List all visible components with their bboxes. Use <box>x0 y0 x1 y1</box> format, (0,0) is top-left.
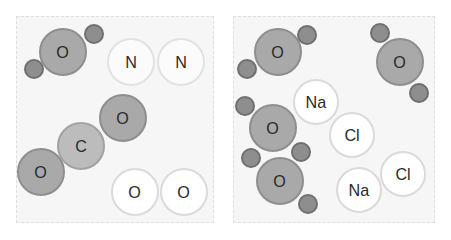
atom-o: O <box>17 148 65 196</box>
atom-label: Cl <box>395 166 410 183</box>
atom-na: Na <box>293 79 339 125</box>
atom-h <box>84 24 104 44</box>
atom-label: O <box>272 44 285 61</box>
atom-label: O <box>35 164 48 181</box>
atom-n: N <box>107 38 155 86</box>
atom-label: Na <box>306 94 327 111</box>
atom-h <box>409 83 429 103</box>
atom-c: C <box>57 122 105 170</box>
atom-o: O <box>160 168 208 216</box>
atom-na: Na <box>336 167 382 213</box>
atom-label: O <box>117 110 130 127</box>
atom-label: O <box>267 120 280 137</box>
atom-o: O <box>254 28 302 76</box>
atom-label: O <box>129 184 142 201</box>
atom-h <box>298 194 318 214</box>
atom-o: O <box>249 104 297 152</box>
atom-label: O <box>274 173 287 190</box>
atom-h <box>235 96 255 116</box>
atom-o: O <box>376 38 424 86</box>
atom-o: O <box>111 168 159 216</box>
atom-h <box>291 142 311 162</box>
atom-label: C <box>75 138 87 155</box>
atom-o: O <box>39 28 87 76</box>
atom-o: O <box>99 94 147 142</box>
atom-label: Na <box>349 182 370 199</box>
atom-label: O <box>394 54 407 71</box>
atom-cl: Cl <box>380 151 426 197</box>
atom-o: O <box>256 157 304 205</box>
atom-label: N <box>175 54 187 71</box>
atom-label: O <box>178 184 191 201</box>
atom-label: N <box>125 54 137 71</box>
atom-label: Cl <box>344 127 359 144</box>
atom-label: O <box>57 44 70 61</box>
atom-n: N <box>157 38 205 86</box>
atom-h <box>241 148 261 168</box>
atom-h <box>370 23 390 43</box>
atom-h <box>237 59 257 79</box>
atom-cl: Cl <box>329 112 375 158</box>
